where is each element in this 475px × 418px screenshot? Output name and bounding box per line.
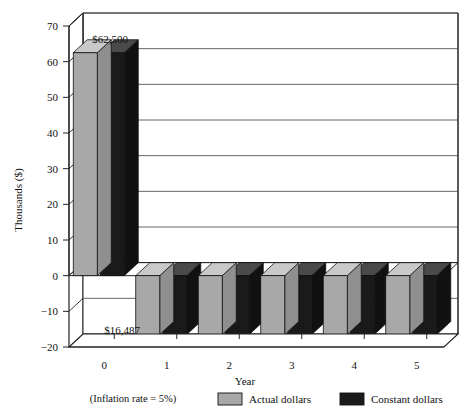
x-tick-label-3: 3 [289, 359, 295, 371]
bar-actual-front [323, 276, 347, 335]
bar-actual-5 [386, 263, 424, 335]
bar-actual-front [386, 276, 410, 335]
y-tick-label-0: 0 [53, 270, 59, 282]
positive-bar-value-label: $62,500 [92, 33, 128, 45]
bar-actual-front [73, 53, 97, 276]
legend-swatch-0 [218, 393, 242, 405]
negative-bar-value-label: $16,487 [104, 324, 140, 336]
y-tick-label-60: 60 [47, 56, 59, 68]
x-tick-label-0: 0 [102, 359, 108, 371]
y-tick-label-70: 70 [47, 20, 59, 32]
bar-actual-2 [198, 263, 236, 335]
x-tick-label-1: 1 [164, 359, 170, 371]
x-tick-label-5: 5 [414, 359, 420, 371]
chart-container: −20−10010203040506070012345Thousands ($)… [0, 0, 475, 418]
inflation-rate-footnote: (Inflation rate = 5%) [90, 393, 177, 405]
plot-back-wall [83, 13, 458, 263]
y-tick-label--10: −10 [41, 305, 59, 317]
y-tick-depth--10 [69, 298, 83, 311]
bar-actual-0 [73, 40, 111, 276]
bar-actual-side [97, 40, 111, 276]
legend-swatch-1 [340, 393, 364, 405]
bar-constant-side [124, 40, 138, 276]
bar-actual-front [261, 276, 285, 335]
x-tick-label-2: 2 [227, 359, 233, 371]
y-tick-label-40: 40 [47, 127, 59, 139]
y-tick-label--20: −20 [41, 341, 59, 353]
y-tick-label-20: 20 [47, 198, 59, 210]
y-tick-label-50: 50 [47, 91, 59, 103]
bar-actual-3 [261, 263, 299, 335]
bar-actual-front [198, 276, 222, 335]
y-axis-title: Thousands ($) [12, 168, 25, 232]
x-tick-label-4: 4 [352, 359, 358, 371]
y-tick-label-10: 10 [47, 234, 59, 246]
x-axis-title: Year [235, 375, 256, 387]
bar-actual-1 [136, 263, 174, 335]
y-tick-label-30: 30 [47, 163, 59, 175]
bar-actual-4 [323, 263, 361, 335]
bar-chart: −20−10010203040506070012345Thousands ($)… [0, 0, 475, 418]
legend-label-1: Constant dollars [371, 393, 443, 405]
legend-label-0: Actual dollars [249, 393, 311, 405]
